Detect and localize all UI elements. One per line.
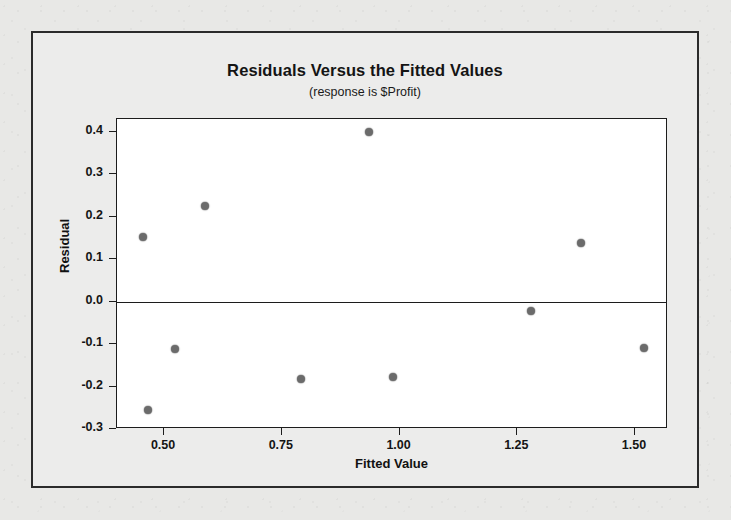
y-tick-label: 0.1 bbox=[33, 250, 103, 264]
scatter-point bbox=[201, 202, 209, 210]
x-tick-mark bbox=[516, 428, 517, 435]
y-axis-title: Residual bbox=[57, 219, 72, 273]
scatter-point bbox=[640, 344, 648, 352]
scatter-point bbox=[297, 375, 305, 383]
y-tick-label: -0.1 bbox=[33, 335, 103, 349]
y-tick-mark bbox=[109, 343, 116, 344]
y-tick-label: 0.3 bbox=[33, 165, 103, 179]
x-tick-label: 1.50 bbox=[622, 438, 646, 452]
x-tick-label: 1.00 bbox=[386, 438, 410, 452]
y-tick-label: 0.4 bbox=[33, 123, 103, 137]
x-tick-mark bbox=[399, 428, 400, 435]
chart-figure-frame: Residuals Versus the Fitted Values (resp… bbox=[31, 31, 699, 488]
plot-inner bbox=[117, 119, 666, 427]
plot-area bbox=[116, 118, 667, 428]
y-tick-mark bbox=[109, 258, 116, 259]
y-tick-mark bbox=[109, 216, 116, 217]
x-tick-label: 0.75 bbox=[269, 438, 293, 452]
y-tick-label: 0.2 bbox=[33, 208, 103, 222]
x-tick-mark bbox=[163, 428, 164, 435]
y-tick-label: -0.2 bbox=[33, 378, 103, 392]
x-axis-title: Fitted Value bbox=[116, 456, 667, 471]
scatter-point bbox=[389, 373, 397, 381]
y-tick-mark bbox=[109, 386, 116, 387]
x-tick-label: 1.25 bbox=[504, 438, 528, 452]
scatter-point bbox=[577, 239, 585, 247]
chart-title: Residuals Versus the Fitted Values bbox=[33, 61, 697, 80]
screenshot-root: Residuals Versus the Fitted Values (resp… bbox=[0, 0, 731, 520]
y-tick-mark bbox=[109, 173, 116, 174]
y-tick-label: 0.0 bbox=[33, 293, 103, 307]
x-tick-label: 0.50 bbox=[151, 438, 175, 452]
y-tick-mark bbox=[109, 301, 116, 302]
x-tick-mark bbox=[281, 428, 282, 435]
scatter-point bbox=[527, 307, 535, 315]
y-tick-mark bbox=[109, 131, 116, 132]
y-tick-mark bbox=[109, 428, 116, 429]
chart-subtitle: (response is $Profit) bbox=[33, 85, 697, 99]
x-tick-mark bbox=[634, 428, 635, 435]
scatter-point bbox=[139, 233, 147, 241]
scatter-point bbox=[171, 345, 179, 353]
y-tick-label: -0.3 bbox=[33, 420, 103, 434]
scatter-point bbox=[144, 406, 152, 414]
zero-reference-line bbox=[117, 302, 666, 303]
scatter-point bbox=[365, 128, 373, 136]
